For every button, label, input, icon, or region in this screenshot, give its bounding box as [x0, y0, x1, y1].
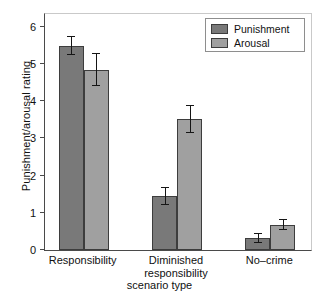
y-axis-tick-label: 2 [30, 170, 36, 181]
error-bar-cap [279, 229, 287, 230]
x-axis-group-label: No–crime [209, 254, 319, 267]
error-bar-arousal-0 [96, 54, 97, 86]
y-axis-tick: 6 [40, 26, 45, 27]
y-axis-tick-label: 1 [30, 207, 36, 218]
bar-chart-figure: Punishment/arousal rating 0123456 Respon… [0, 0, 319, 301]
y-axis-tick: 0 [40, 249, 45, 250]
error-bar-arousal-1 [190, 106, 191, 134]
error-bar-cap [92, 85, 100, 86]
error-bar-cap [254, 242, 262, 243]
error-bar-cap [279, 219, 287, 220]
error-bar-cap [92, 53, 100, 54]
error-bar-cap [67, 54, 75, 55]
error-bar-cap [161, 204, 169, 205]
bar-arousal-1 [177, 119, 202, 250]
bar-punishment-0 [59, 46, 84, 250]
y-axis-tick-label: 6 [30, 21, 36, 32]
legend-label-punishment: Punishment [234, 24, 289, 35]
legend-swatch-punishment [211, 24, 228, 34]
y-axis-tick-label: 3 [30, 133, 36, 144]
y-axis-tick: 1 [40, 212, 45, 213]
chart-legend: Punishment Arousal [205, 18, 305, 52]
x-axis-group-label-line: responsibility [116, 267, 236, 280]
legend-item-punishment: Punishment [211, 23, 299, 35]
y-axis-tick: 5 [40, 63, 45, 64]
y-axis-tick: 4 [40, 100, 45, 101]
legend-label-arousal: Arousal [234, 38, 270, 49]
error-bar-cap [67, 36, 75, 37]
error-bar-punishment-0 [71, 37, 72, 55]
y-axis-tick: 3 [40, 137, 45, 138]
error-bar-cap [254, 233, 262, 234]
legend-swatch-arousal [211, 38, 228, 48]
y-axis-tick: 2 [40, 175, 45, 176]
error-bar-punishment-1 [165, 188, 166, 206]
error-bar-cap [161, 187, 169, 188]
y-axis-tick-label: 5 [30, 59, 36, 70]
error-bar-cap [186, 105, 194, 106]
x-axis-title: scenario type [0, 279, 319, 291]
y-axis-tick-label: 4 [30, 96, 36, 107]
bar-arousal-0 [84, 70, 109, 250]
x-axis-group-label-line: No–crime [209, 254, 319, 267]
error-bar-cap [186, 132, 194, 133]
legend-item-arousal: Arousal [211, 37, 299, 49]
